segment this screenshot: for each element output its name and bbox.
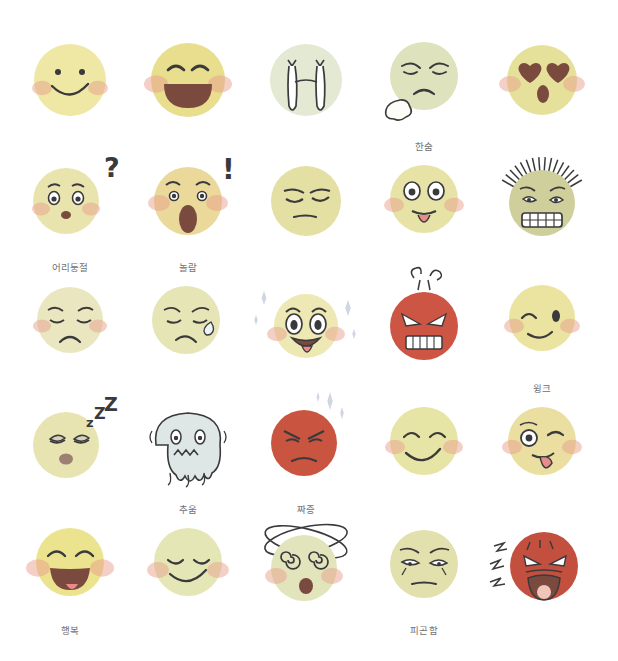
heart-eyes-face [480, 22, 604, 154]
annoyed-face-glyph [244, 385, 368, 517]
bored-face-glyph [244, 143, 368, 275]
tired-face-label: 피곤함 [362, 625, 486, 636]
annoyed-face: 짜증 [244, 385, 368, 517]
dizzy-spiral-eyes-face-glyph [244, 506, 368, 638]
angry-steaming-face [362, 264, 486, 396]
nervous-sweat-face [126, 264, 250, 396]
svg-text:z: z [86, 415, 94, 430]
winking-face-glyph [480, 264, 604, 396]
svg-text:!: ! [222, 153, 235, 186]
freezing-melting-face-glyph [126, 385, 250, 517]
joyful-face-label: 행복 [8, 625, 132, 636]
stressed-spiky-hair-face [480, 143, 604, 275]
content-smiling-face [362, 385, 486, 517]
content-smiling-face-glyph [362, 385, 486, 517]
dizzy-spiral-eyes-face [244, 506, 368, 638]
tongue-out-face [362, 143, 486, 275]
sad-face [8, 264, 132, 396]
laughing-open-mouth-face [126, 22, 250, 154]
laughing-open-mouth-face-glyph [126, 22, 250, 154]
sighing-face-glyph [362, 22, 486, 154]
confused-face: ? 어리둥절 [8, 143, 132, 275]
calm-closed-eyes-face [126, 506, 250, 638]
tongue-out-face-glyph [362, 143, 486, 275]
crying-waterfall-face [244, 22, 368, 154]
shouting-angry-face [480, 506, 604, 638]
smiling-face [8, 22, 132, 154]
excited-sparkle-face-glyph [244, 264, 368, 396]
tired-face: 피곤함 [362, 506, 486, 638]
excited-sparkle-face [244, 264, 368, 396]
sleeping-face: z Z Z [8, 385, 132, 517]
sleeping-face-glyph: z Z Z [8, 385, 132, 517]
nervous-sweat-face-glyph [126, 264, 250, 396]
heart-eyes-face-glyph [480, 22, 604, 154]
tired-face-glyph [362, 506, 486, 638]
angry-steaming-face-glyph [362, 264, 486, 396]
emoji-sheet: 한숨 ? 어리둥절 ! 놀람 [0, 0, 618, 661]
winking-face: 윙크 [480, 264, 604, 396]
joyful-face-glyph [8, 506, 132, 638]
shouting-angry-face-glyph [480, 506, 604, 638]
svg-text:Z: Z [104, 393, 118, 415]
silly-wide-eye-face [480, 385, 604, 517]
shocked-face: ! 놀람 [126, 143, 250, 275]
stressed-spiky-hair-face-glyph [480, 143, 604, 275]
crying-waterfall-face-glyph [244, 22, 368, 154]
sighing-face: 한숨 [362, 22, 486, 154]
silly-wide-eye-face-glyph [480, 385, 604, 517]
bored-face [244, 143, 368, 275]
confused-face-glyph: ? [8, 143, 132, 275]
sad-face-glyph [8, 264, 132, 396]
freezing-melting-face: 추움 [126, 385, 250, 517]
shocked-face-glyph: ! [126, 143, 250, 275]
calm-closed-eyes-face-glyph [126, 506, 250, 638]
svg-text:?: ? [104, 152, 120, 183]
smiling-face-glyph [8, 22, 132, 154]
joyful-face: 행복 [8, 506, 132, 638]
